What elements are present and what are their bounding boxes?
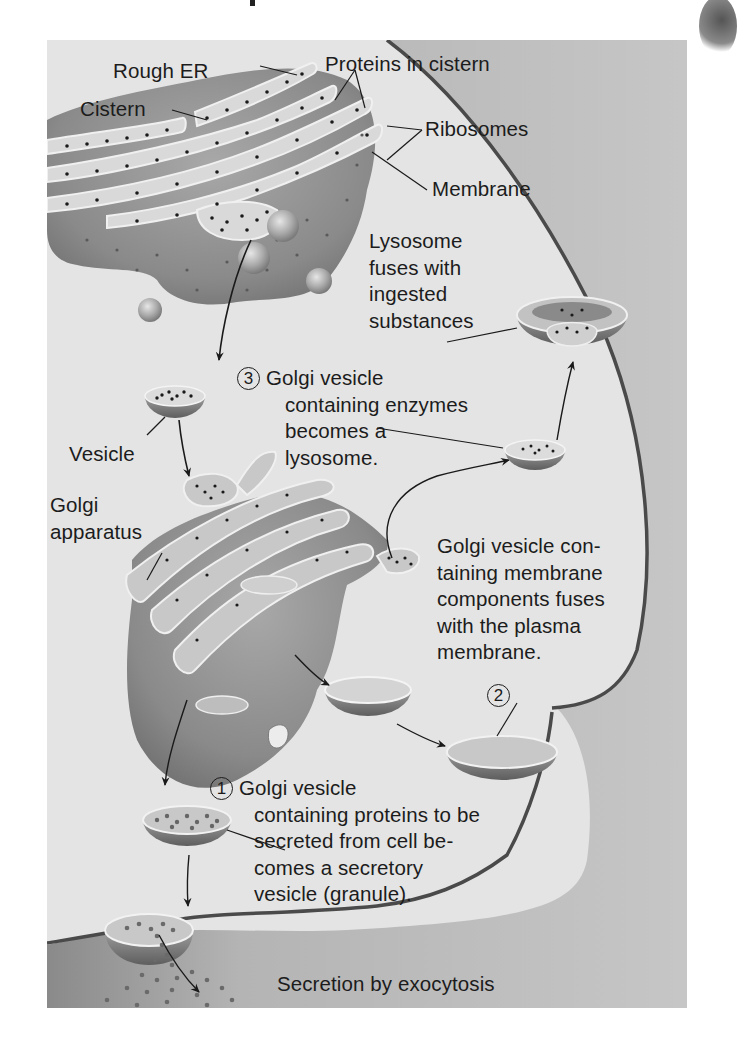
label-step2-number: 2: [487, 682, 516, 708]
step2-number-badge: 2: [487, 684, 510, 707]
label-lysosome-fuses: Lysosome fuses with ingested substances: [369, 228, 474, 334]
label-golgi-apparatus: Golgi apparatus: [50, 492, 142, 545]
page-margin-top: [0, 0, 719, 40]
label-proteins-in-cistern: Proteins in cistern: [325, 51, 490, 77]
label-rough-er: Rough ER: [113, 58, 208, 84]
label-secretion: Secretion by exocytosis: [277, 971, 495, 997]
label-step1: 1Golgi vesicle containing proteins to be…: [210, 775, 480, 908]
transport-vesicle: [145, 386, 205, 418]
cropped-glyph: [250, 0, 255, 6]
label-membrane: Membrane: [432, 176, 531, 202]
label-step2-description: Golgi vesicle con- taining membrane comp…: [437, 533, 605, 666]
label-vesicle: Vesicle: [69, 441, 135, 467]
membrane-vesicle: [325, 677, 411, 716]
corner-shadow: [699, 0, 737, 56]
label-cistern: Cistern: [80, 96, 146, 122]
golgi-apparatus: [126, 452, 419, 788]
enzyme-vesicle: [505, 440, 565, 470]
label-ribosomes: Ribosomes: [425, 116, 528, 142]
step1-number-badge: 1: [210, 777, 233, 800]
step3-number-badge: 3: [237, 367, 260, 390]
label-step3: 3Golgi vesicle containing enzymes become…: [237, 365, 468, 471]
diagram-panel: Rough ER Cistern Proteins in cistern Rib…: [47, 40, 687, 1008]
